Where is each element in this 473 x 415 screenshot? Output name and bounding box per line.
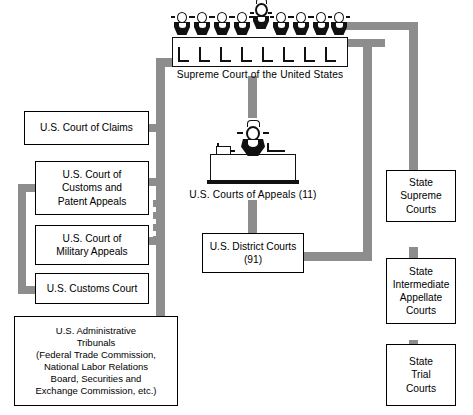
- justice-figure: [330, 12, 348, 40]
- box-label: Military Appeals: [53, 245, 130, 258]
- justice-figure: [233, 12, 251, 40]
- bench-divider: [267, 143, 289, 152]
- box-state-trial-courts[interactable]: State Trial Courts: [386, 344, 456, 406]
- box-state-intermediate-appellate-courts[interactable]: State Intermediate Appellate Courts: [386, 258, 456, 324]
- box-label: U.S. Administrative: [33, 325, 160, 337]
- box-us-court-of-claims[interactable]: U.S. Court of Claims: [24, 111, 149, 145]
- connector-supreme-to-appeals: [248, 76, 257, 118]
- appeals-bench: [210, 154, 296, 181]
- box-label: Trial: [403, 368, 439, 381]
- bench-divider: [262, 47, 275, 62]
- connector-state-bus: [409, 22, 418, 172]
- box-label: (91): [207, 253, 300, 266]
- bench-papers: [216, 146, 231, 155]
- bench-divider: [220, 47, 233, 62]
- connector-supreme-to-state-top: [343, 22, 417, 30]
- box-label: U.S. Court of: [53, 232, 130, 245]
- box-us-administrative-tribunals[interactable]: U.S. Administrative Tribunals (Federal T…: [14, 316, 178, 406]
- box-label: National Labor Relations: [33, 361, 160, 373]
- box-label: Supreme: [397, 189, 444, 202]
- box-label: Exchange Commission, etc.): [33, 385, 160, 397]
- box-label: U.S. District Courts: [207, 240, 300, 253]
- justice-figure: [292, 12, 310, 40]
- box-label: State: [397, 176, 444, 189]
- box-label: Patent Appeals: [55, 195, 130, 208]
- box-label: Appellate: [390, 291, 453, 304]
- box-label: Tribunals: [33, 337, 160, 349]
- box-label: State: [390, 265, 453, 278]
- box-us-customs-court[interactable]: U.S. Customs Court: [35, 273, 149, 304]
- bench-divider: [325, 47, 338, 62]
- supreme-court-caption: Supreme Court of the United States: [160, 69, 360, 80]
- bench-divider: [283, 47, 296, 62]
- bench-divider: [178, 47, 191, 62]
- box-label: U.S. Court of Claims: [37, 121, 136, 134]
- justice-figure: [173, 12, 191, 40]
- box-label: Courts: [397, 203, 444, 216]
- box-us-district-courts[interactable]: U.S. District Courts (91): [202, 233, 304, 273]
- box-label: (Federal Trade Commission,: [33, 349, 160, 361]
- justice-figure: [272, 12, 290, 40]
- box-label: U.S. Customs Court: [44, 282, 141, 295]
- box-label: U.S. Court of: [55, 168, 130, 181]
- bench-divider: [199, 47, 212, 62]
- box-label: Courts: [403, 382, 439, 395]
- box-label: Courts: [390, 304, 453, 317]
- justice-figure: [193, 12, 211, 40]
- box-us-court-of-military-appeals[interactable]: U.S. Court of Military Appeals: [35, 225, 149, 265]
- supreme-court-illustration: [172, 10, 348, 68]
- connector-right-bus-to-district: [300, 252, 372, 261]
- connector-appeals-to-district: [248, 200, 257, 236]
- connector-farleft-bus: [18, 184, 26, 294]
- chief-justice-figure: [252, 3, 270, 31]
- box-label: Intermediate: [390, 278, 453, 291]
- bench-divider: [304, 47, 317, 62]
- box-label: Board, Securities and: [33, 373, 160, 385]
- appeals-judge-figure: [240, 126, 266, 156]
- box-state-supreme-courts[interactable]: State Supreme Courts: [386, 170, 456, 222]
- box-label: Customs and: [55, 181, 130, 194]
- courts-of-appeals-illustration: [210, 130, 296, 186]
- bench-divider: [241, 47, 254, 62]
- appeals-bench-base: [207, 180, 299, 184]
- box-label: State: [403, 355, 439, 368]
- box-us-court-of-customs-and-patent-appeals[interactable]: U.S. Court of Customs and Patent Appeals: [35, 161, 149, 215]
- connector-right-inner-bus: [363, 39, 372, 261]
- justice-figure: [213, 12, 231, 40]
- court-system-diagram: Supreme Court of the United States U.S. …: [0, 0, 473, 415]
- courts-of-appeals-caption: U.S. Courts of Appeals (11): [183, 189, 323, 200]
